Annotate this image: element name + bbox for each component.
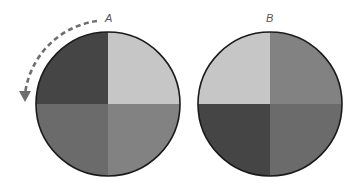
circle-a-label: A [105, 13, 112, 24]
circle-b-quadrant-top-left [198, 32, 270, 104]
circle-a-quadrant-top-right [108, 32, 180, 104]
circle-b-quadrant-bottom-right [270, 104, 342, 176]
diagram-canvas [0, 0, 357, 190]
circle-a-quadrant-top-left [36, 32, 108, 104]
circle-b-quadrant-bottom-left [198, 104, 270, 176]
circle-b-quadrant-top-right [270, 32, 342, 104]
circle-a-quadrant-bottom-left [36, 104, 108, 176]
circle-b-label: B [266, 13, 273, 24]
circle-a-quadrant-bottom-right [108, 104, 180, 176]
rotation-diagram: A B [0, 0, 357, 190]
